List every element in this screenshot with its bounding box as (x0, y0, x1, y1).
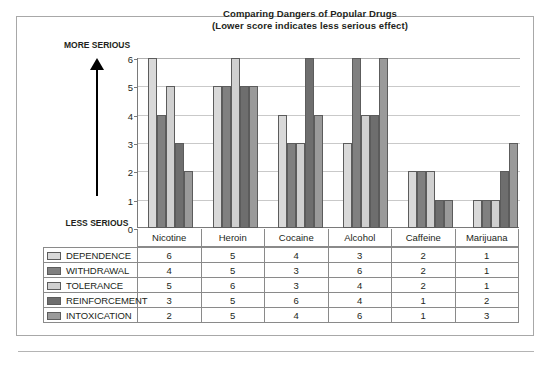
table-row: REINFORCEMENT356412 (44, 293, 519, 308)
legend-series-label: INTOXICATION (66, 310, 131, 321)
value-cell-withdrawal-caffeine: 2 (392, 263, 456, 278)
bar-tolerance-alcohol (361, 115, 370, 228)
y-axis-tick-label: 6 (128, 54, 133, 65)
bar-intoxication-marijuana (509, 143, 518, 228)
bar-withdrawal-caffeine (417, 171, 426, 228)
value-cell-dependence-marijuana: 1 (455, 248, 519, 263)
legend-series-label: TOLERANCE (66, 280, 123, 291)
value-cell-reinforcement-cocaine: 6 (265, 293, 329, 308)
value-cell-dependence-nicotine: 6 (138, 248, 202, 263)
legend-entry-withdrawal: WITHDRAWAL (44, 263, 138, 278)
legend-swatch-icon (47, 252, 61, 260)
bar-reinforcement-marijuana (500, 171, 509, 228)
bar-group-marijuana (463, 58, 528, 228)
legend-series-label: WITHDRAWAL (66, 265, 129, 276)
value-cell-intoxication-alcohol: 6 (328, 308, 392, 323)
up-arrow-shaft-icon (96, 66, 98, 196)
bar-intoxication-caffeine (444, 200, 453, 228)
value-cell-intoxication-cocaine: 4 (265, 308, 329, 323)
value-cell-dependence-heroin: 5 (201, 248, 265, 263)
title-block: Comparing Dangers of Popular Drugs (Lowe… (110, 8, 510, 32)
bar-reinforcement-nicotine (175, 143, 184, 228)
category-label-alcohol: Alcohol (329, 229, 393, 246)
bar-withdrawal-alcohol (352, 58, 361, 228)
value-cell-withdrawal-nicotine: 4 (138, 263, 202, 278)
y-axis-tick-label: 2 (128, 167, 133, 178)
y-axis-tick-label: 3 (128, 139, 133, 150)
legend-swatch-icon (47, 267, 61, 275)
bar-tolerance-caffeine (426, 171, 435, 228)
plot-wrapper: 0123456 (137, 58, 519, 231)
value-cell-intoxication-nicotine: 2 (138, 308, 202, 323)
bar-intoxication-cocaine (314, 115, 323, 228)
bar-groups-layer (138, 58, 520, 228)
value-cell-withdrawal-heroin: 5 (201, 263, 265, 278)
category-label-nicotine: Nicotine (138, 229, 202, 246)
legend-data-table-body: DEPENDENCE654321WITHDRAWAL453621TOLERANC… (44, 248, 519, 323)
bar-tolerance-heroin (231, 58, 240, 228)
bar-intoxication-alcohol (379, 58, 388, 228)
value-cell-withdrawal-cocaine: 3 (265, 263, 329, 278)
value-cell-tolerance-marijuana: 1 (455, 278, 519, 293)
bar-reinforcement-alcohol (370, 115, 379, 228)
bottom-divider-rule (18, 351, 534, 352)
bar-intoxication-nicotine (184, 171, 193, 228)
bar-reinforcement-heroin (240, 86, 249, 228)
legend-entry-intoxication: INTOXICATION (44, 308, 138, 323)
value-cell-withdrawal-marijuana: 1 (455, 263, 519, 278)
value-cell-reinforcement-alcohol: 4 (328, 293, 392, 308)
value-cell-tolerance-caffeine: 2 (392, 278, 456, 293)
category-label-caffeine: Caffeine (392, 229, 456, 246)
value-cell-tolerance-nicotine: 5 (138, 278, 202, 293)
y-axis-tick-label: 0 (128, 224, 133, 235)
category-label-heroin: Heroin (202, 229, 266, 246)
chart-subtitle: (Lower score indicates less serious effe… (110, 20, 510, 32)
more-serious-label: MORE SERIOUS (62, 40, 132, 50)
value-cell-tolerance-alcohol: 4 (328, 278, 392, 293)
bar-intoxication-heroin (249, 86, 258, 228)
legend-series-label: REINFORCEMENT (66, 295, 148, 306)
legend-data-table: DEPENDENCE654321WITHDRAWAL453621TOLERANC… (43, 247, 519, 323)
value-cell-reinforcement-caffeine: 1 (392, 293, 456, 308)
legend-entry-dependence: DEPENDENCE (44, 248, 138, 263)
category-label-marijuana: Marijuana (456, 229, 519, 246)
bar-group-cocaine (268, 58, 333, 228)
bar-reinforcement-cocaine (305, 58, 314, 228)
legend-series-label: DEPENDENCE (66, 250, 131, 261)
category-label-cocaine: Cocaine (265, 229, 329, 246)
value-cell-dependence-alcohol: 3 (328, 248, 392, 263)
bar-dependence-heroin (213, 86, 222, 228)
legend-entry-reinforcement: REINFORCEMENT (44, 293, 138, 308)
bar-dependence-cocaine (278, 115, 287, 228)
plot-area: 0123456 (137, 58, 519, 228)
bar-group-caffeine (398, 58, 463, 228)
bar-tolerance-nicotine (166, 86, 175, 228)
bar-tolerance-cocaine (296, 143, 305, 228)
value-cell-intoxication-heroin: 5 (201, 308, 265, 323)
value-cell-reinforcement-marijuana: 2 (455, 293, 519, 308)
value-cell-intoxication-caffeine: 1 (392, 308, 456, 323)
bar-dependence-caffeine (408, 171, 417, 228)
chart-title: Comparing Dangers of Popular Drugs (110, 8, 510, 20)
bar-dependence-nicotine (148, 58, 157, 228)
category-axis-row: NicotineHeroinCocaineAlcoholCaffeineMari… (137, 229, 519, 247)
bar-group-nicotine (138, 58, 203, 228)
legend-entry-tolerance: TOLERANCE (44, 278, 138, 293)
bar-dependence-alcohol (343, 143, 352, 228)
table-row: DEPENDENCE654321 (44, 248, 519, 263)
value-cell-dependence-caffeine: 2 (392, 248, 456, 263)
severity-direction-annotation: MORE SERIOUS LESS SERIOUS (62, 40, 132, 228)
bar-withdrawal-nicotine (157, 115, 166, 228)
y-axis-tick-label: 4 (128, 110, 133, 121)
value-cell-reinforcement-heroin: 5 (201, 293, 265, 308)
bar-withdrawal-cocaine (287, 143, 296, 228)
table-row: TOLERANCE563421 (44, 278, 519, 293)
bar-withdrawal-heroin (222, 86, 231, 228)
legend-swatch-icon (47, 312, 61, 320)
y-axis-tick-label: 5 (128, 82, 133, 93)
bar-reinforcement-caffeine (435, 200, 444, 228)
bar-group-alcohol (333, 58, 398, 228)
value-cell-intoxication-marijuana: 3 (455, 308, 519, 323)
bar-tolerance-marijuana (491, 200, 500, 228)
value-cell-tolerance-cocaine: 3 (265, 278, 329, 293)
